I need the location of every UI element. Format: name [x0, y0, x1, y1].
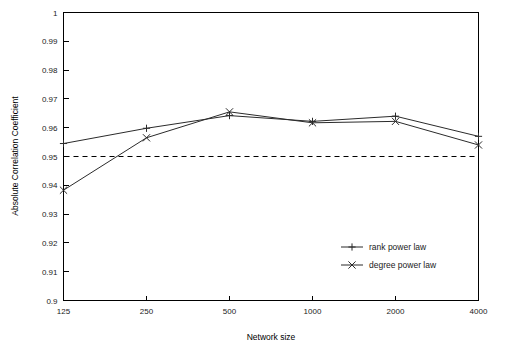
x-axis-ticks: 125250500100020004000	[57, 296, 488, 316]
series-line	[64, 112, 479, 190]
legend-item: rank power law	[341, 242, 427, 252]
x-tick-label: 500	[223, 307, 237, 316]
legend-label: rank power law	[369, 242, 427, 252]
y-tick-label: 0.97	[42, 95, 58, 104]
x-tick-label: 2000	[387, 307, 405, 316]
x-tick-label: 4000	[470, 307, 488, 316]
legend-label: degree power law	[369, 260, 437, 270]
chart-legend: rank power lawdegree power law	[341, 242, 437, 270]
series-line	[64, 116, 479, 144]
y-tick-label: 0.98	[42, 66, 58, 75]
y-tick-label: 1	[53, 9, 58, 18]
x-tick-label: 1000	[304, 307, 322, 316]
correlation-line-chart: 0.90.910.920.930.940.950.960.970.980.991…	[0, 0, 510, 349]
y-tick-label: 0.99	[42, 37, 58, 46]
x-axis-title: Network size	[247, 332, 296, 342]
y-tick-label: 0.9	[46, 297, 58, 306]
y-tick-label: 0.96	[42, 124, 58, 133]
y-tick-label: 0.94	[42, 181, 58, 190]
y-tick-label: 0.93	[42, 210, 58, 219]
y-tick-label: 0.91	[42, 268, 58, 277]
x-tick-label: 125	[57, 307, 71, 316]
y-tick-label: 0.92	[42, 239, 58, 248]
series-degree-power-law	[60, 108, 482, 194]
x-tick-label: 250	[140, 307, 154, 316]
data-series-group	[60, 108, 482, 194]
legend-item: degree power law	[341, 260, 437, 270]
y-tick-label: 0.95	[42, 153, 58, 162]
y-axis-title: Absolute Correlation Coefficient	[10, 96, 20, 216]
chart-container: 0.90.910.920.930.940.950.960.970.980.991…	[0, 0, 510, 349]
